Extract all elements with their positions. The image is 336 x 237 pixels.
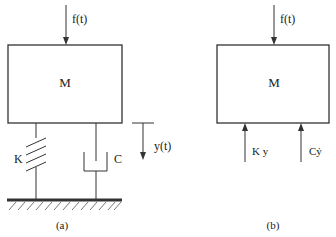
caption-a: (a) (56, 219, 69, 232)
damper-icon (84, 123, 107, 200)
mass-spring-damper-diagram: f(t) M K C y(t) (0, 0, 336, 237)
caption-b: (b) (267, 219, 280, 232)
panel-b: f(t) M K y Cẏ (b) (217, 5, 329, 232)
panel-a: f(t) M K C y(t) (7, 5, 171, 232)
force-arrow-a (63, 5, 69, 45)
spring-force-label: K y (252, 145, 269, 157)
spring-icon (26, 123, 46, 200)
damper-force-arrow (298, 123, 304, 162)
displacement-arrow (132, 123, 154, 160)
ground-icon (7, 200, 122, 210)
force-arrow-b (271, 5, 277, 45)
mass-label-b: M (268, 75, 280, 90)
force-label-a: f(t) (72, 12, 87, 26)
damper-label: C (114, 152, 122, 166)
displacement-label: y(t) (154, 139, 171, 153)
spring-label: K (14, 152, 23, 166)
spring-force-arrow (242, 123, 248, 162)
mass-label-a: M (59, 75, 71, 90)
damper-force-label: Cẏ (309, 145, 322, 157)
force-label-b: f(t) (280, 12, 295, 26)
